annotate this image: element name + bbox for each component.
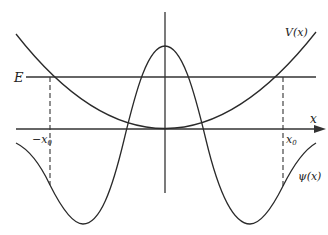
energy-label: E [13, 70, 24, 85]
wavefunction-curve [16, 46, 316, 224]
x-axis-arrow-icon [314, 125, 326, 133]
pos-turning-point-label: x0 [286, 133, 297, 147]
wavefunction-label: ψ(x) [298, 170, 321, 183]
x-axis-label: x [310, 112, 317, 126]
neg-turning-point-label: −x0 [32, 133, 52, 147]
wavefunction-diagram: E V(x) x −x0 x0 ψ(x) [0, 0, 328, 235]
potential-label: V(x) [285, 26, 308, 39]
